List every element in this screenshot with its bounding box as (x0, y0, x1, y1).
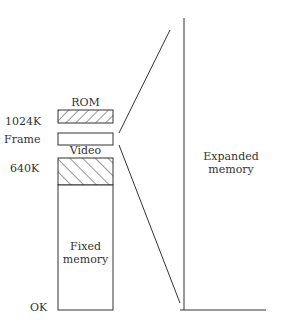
label-ok: OK (30, 302, 47, 314)
expanded-label-line1: Expanded (196, 151, 266, 163)
label-frame: Frame (4, 134, 40, 146)
video-block (58, 158, 113, 185)
label-640k: 640K (10, 163, 39, 175)
rom-block (58, 110, 113, 123)
label-1024k: 1024K (5, 116, 41, 128)
fixed-label-line1: Fixed (58, 241, 113, 253)
video-label: Video (58, 145, 113, 157)
rom-label: ROM (58, 97, 113, 109)
fixed-label-line2: memory (58, 254, 113, 266)
expansion-lines (119, 30, 180, 303)
expanded-label-line2: memory (196, 164, 266, 176)
